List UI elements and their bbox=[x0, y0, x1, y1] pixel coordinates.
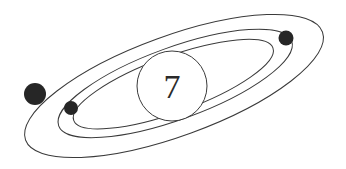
electron-inner bbox=[64, 101, 78, 115]
electron-outer bbox=[24, 83, 46, 105]
electron-middle bbox=[279, 31, 294, 46]
nucleus-label: 7 bbox=[164, 68, 181, 105]
atom-diagram: 7 bbox=[0, 0, 346, 169]
